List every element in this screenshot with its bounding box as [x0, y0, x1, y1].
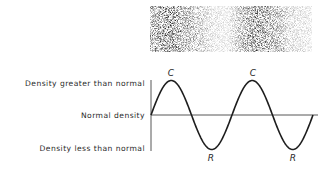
label-density-greater: Density greater than normal [25, 79, 145, 88]
label-density-less: Density less than normal [40, 144, 145, 153]
label-normal-density: Normal density [81, 111, 145, 120]
compression-label-1: C [168, 68, 175, 78]
compression-label-2: C [250, 68, 257, 78]
rarefaction-label-2: R [290, 153, 296, 163]
density-strip-bands [150, 6, 312, 52]
density-wave-diagram: Density greater than normal Normal densi… [0, 0, 326, 169]
rarefaction-label-1: R [208, 153, 214, 163]
density-strip [150, 6, 312, 52]
